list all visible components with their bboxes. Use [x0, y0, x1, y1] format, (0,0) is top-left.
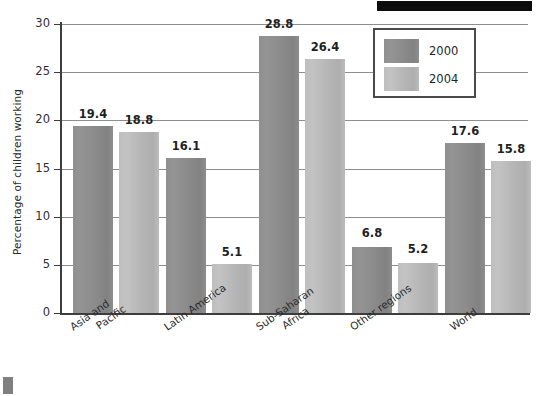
- bar-sub-saharan-africa-2004[interactable]: [305, 59, 345, 313]
- chart-legend: 2000 2004: [373, 28, 476, 98]
- value-label-other-regions-2004: 5.2: [393, 244, 443, 256]
- y-tick-label-25: 25: [18, 66, 50, 78]
- bar-world-2004[interactable]: [491, 161, 531, 313]
- y-tick-label-30: 30: [18, 18, 50, 30]
- bar-asia-and-pacific-2000[interactable]: [73, 126, 113, 313]
- legend-swatch-2000: [384, 39, 419, 63]
- value-label-latin-america-2000: 16.1: [161, 141, 211, 153]
- value-label-latin-america-2004: 5.1: [207, 247, 257, 259]
- bar-chart: Percentage of children working 30 25 20 …: [0, 0, 541, 396]
- bar-sub-saharan-africa-2000[interactable]: [259, 36, 299, 313]
- y-tick-label-10: 10: [18, 211, 50, 223]
- y-tick-label-20: 20: [18, 114, 50, 126]
- bar-latin-america-2000[interactable]: [166, 158, 206, 313]
- legend-swatch-2004: [384, 67, 419, 91]
- value-label-world-2000: 17.6: [440, 126, 490, 138]
- value-label-sub-saharan-africa-2004: 26.4: [300, 42, 350, 54]
- legend-label-2000: 2000: [429, 44, 458, 58]
- value-label-sub-saharan-africa-2000: 28.8: [254, 19, 304, 31]
- bar-asia-and-pacific-2004[interactable]: [119, 132, 159, 313]
- bar-world-2000[interactable]: [445, 143, 485, 313]
- value-label-world-2004: 15.8: [486, 144, 536, 156]
- value-label-asia-and-pacific-2004: 18.8: [114, 115, 164, 127]
- y-tick-label-15: 15: [18, 163, 50, 175]
- value-label-other-regions-2000: 6.8: [347, 228, 397, 240]
- y-tick-label-5: 5: [18, 259, 50, 271]
- value-label-asia-and-pacific-2000: 19.4: [68, 109, 118, 121]
- legend-label-2004: 2004: [429, 72, 458, 86]
- y-tick-label-0: 0: [18, 307, 50, 319]
